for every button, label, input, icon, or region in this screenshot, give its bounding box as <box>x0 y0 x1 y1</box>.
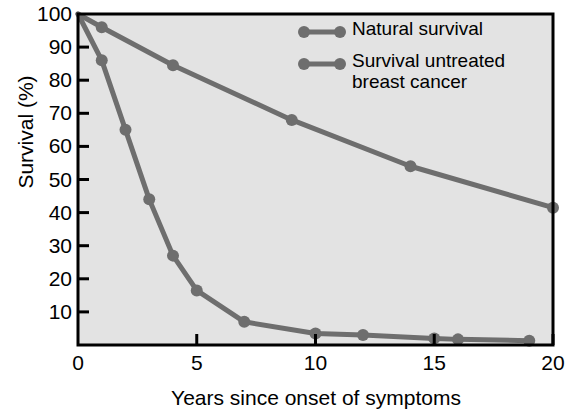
data-point <box>96 54 108 66</box>
legend-swatch-dot <box>298 58 310 70</box>
data-point <box>167 250 179 262</box>
data-point <box>143 193 155 205</box>
legend-item-untreated-breast-cancer: Survival untreated breast cancer <box>352 50 562 93</box>
data-point <box>357 329 369 341</box>
data-point <box>96 21 108 33</box>
data-point <box>167 59 179 71</box>
data-point <box>191 284 203 296</box>
legend-swatch-dot <box>334 26 346 38</box>
legend-item-natural-survival: Natural survival <box>352 18 562 50</box>
data-point <box>238 316 250 328</box>
chart-figure: Survival (%) 102030405060708090100 05101… <box>0 0 576 417</box>
legend-swatch-dot <box>298 26 310 38</box>
legend-swatch-dot <box>334 58 346 70</box>
data-point <box>120 124 132 136</box>
data-point <box>286 114 298 126</box>
legend: Natural survival Survival untreated brea… <box>352 18 562 93</box>
data-point <box>405 160 417 172</box>
